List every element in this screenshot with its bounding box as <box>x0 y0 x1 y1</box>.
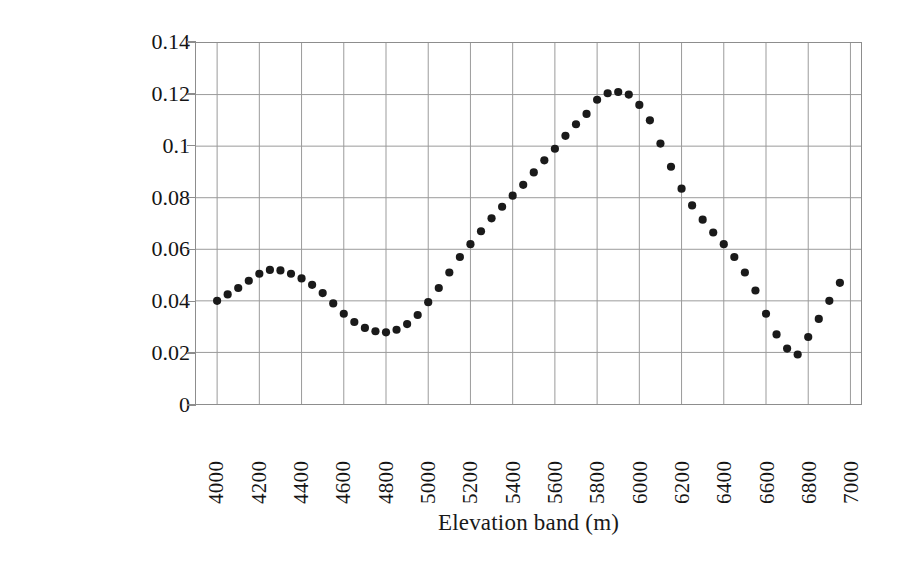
x-axis-tick-label: 7000 <box>840 408 862 504</box>
x-axis-tick-label: 5600 <box>544 408 566 504</box>
x-axis-tick-label: 4200 <box>248 408 270 504</box>
y-axis-tick-label: 0 <box>108 394 190 416</box>
y-axis-tick-label: 0.06 <box>108 238 190 260</box>
y-axis-title: Standard deviation of snow-cover percent… <box>14 28 106 418</box>
x-axis-tick-label: 5200 <box>459 408 481 504</box>
y-axis-tick-label: 0.12 <box>108 83 190 105</box>
y-axis-tick-label: 0.02 <box>108 342 190 364</box>
y-axis-tick-labels: 00.020.040.060.080.10.120.14 <box>108 0 190 572</box>
x-axis-tick-label: 4000 <box>205 408 227 504</box>
y-axis-tick-label: 0.04 <box>108 290 190 312</box>
plot-area <box>195 42 862 405</box>
x-axis-tick-label: 6400 <box>713 408 735 504</box>
x-axis-tick-label: 4800 <box>375 408 397 504</box>
x-axis-tick-label: 6000 <box>629 408 651 504</box>
y-axis-tick-label: 0.14 <box>108 31 190 53</box>
chart-figure: Standard deviation of snow-cover percent… <box>0 0 898 572</box>
y-axis-tick-label: 0.08 <box>108 187 190 209</box>
x-axis-tick-label: 5800 <box>586 408 608 504</box>
y-axis-tick-label: 0.1 <box>108 135 190 157</box>
x-axis-tick-label: 6200 <box>671 408 693 504</box>
x-axis-tick-label: 5400 <box>502 408 524 504</box>
x-axis-title: Elevation band (m) <box>195 508 862 538</box>
grid-lines <box>196 43 861 404</box>
x-axis-tick-label: 4400 <box>290 408 312 504</box>
x-axis-tick-label: 6600 <box>756 408 778 504</box>
x-axis-tick-labels: 4000420044004600480050005200540056005800… <box>195 408 862 504</box>
x-axis-tick-label: 4600 <box>332 408 354 504</box>
x-axis-tick-label: 6800 <box>798 408 820 504</box>
x-axis-tick-label: 5000 <box>417 408 439 504</box>
